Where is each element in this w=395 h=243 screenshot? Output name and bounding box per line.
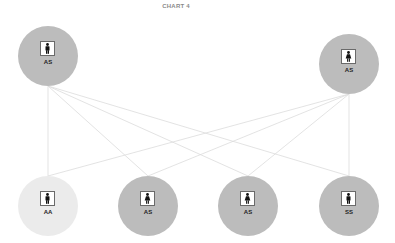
icon-frame: [341, 49, 356, 64]
person-node-bottom-4: SS: [319, 176, 379, 236]
node-label: AA: [18, 209, 78, 215]
male-person-icon: [345, 193, 352, 204]
node-label: AS: [118, 209, 178, 215]
icon-frame: [40, 41, 55, 56]
male-person-icon: [44, 43, 51, 54]
icon-frame: [341, 191, 356, 206]
person-node-bottom-1: AA: [18, 176, 78, 236]
edge-top-right-bottom-2: [148, 94, 349, 176]
female-person-icon: [144, 193, 151, 204]
node-label: AS: [218, 209, 278, 215]
icon-frame: [40, 191, 55, 206]
female-person-icon: [345, 51, 352, 62]
male-person-icon: [44, 193, 51, 204]
node-label: AS: [319, 67, 379, 73]
edge-top-left-bottom-3: [48, 86, 248, 176]
person-node-bottom-3: AS: [218, 176, 278, 236]
person-node-bottom-2: AS: [118, 176, 178, 236]
edge-top-right-bottom-3: [248, 94, 349, 176]
node-label: SS: [319, 209, 379, 215]
person-node-top-left: AS: [18, 26, 78, 86]
icon-frame: [140, 191, 155, 206]
icon-frame: [240, 191, 255, 206]
person-node-top-right: AS: [319, 34, 379, 94]
node-label: AS: [18, 59, 78, 65]
female-person-icon: [244, 193, 251, 204]
